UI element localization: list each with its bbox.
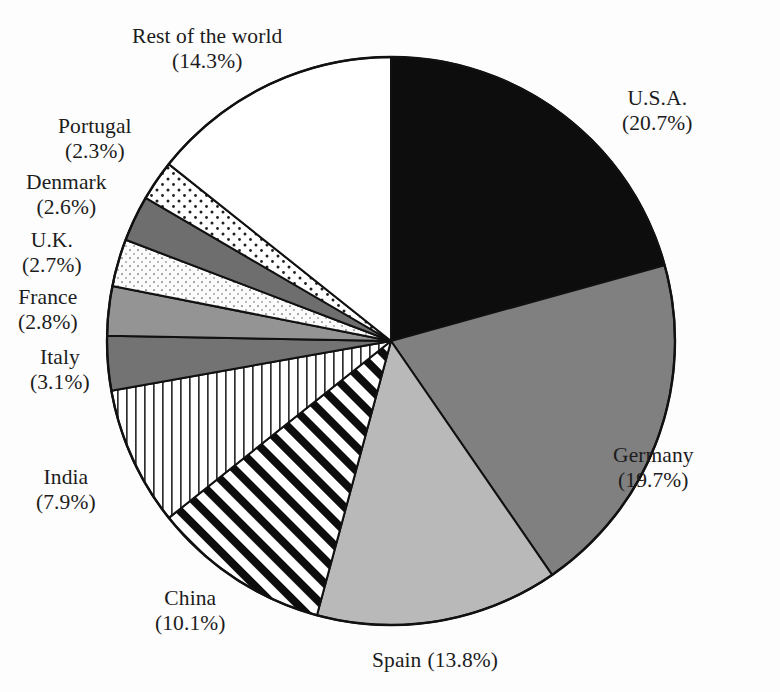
pie-chart: U.S.A.(20.7%)Germany(19.7%)Spain(13.8%)C… bbox=[0, 0, 780, 692]
pie-label-denmark: Denmark(2.6%) bbox=[26, 170, 107, 220]
pie-label-percent: (7.9%) bbox=[36, 490, 96, 515]
pie-label-name: U.K. bbox=[22, 228, 82, 253]
pie-label-india: India(7.9%) bbox=[36, 465, 96, 515]
pie-label-percent: (13.8%) bbox=[427, 648, 498, 672]
pie-label-name: U.S.A. bbox=[622, 86, 693, 111]
pie-label-percent: (10.1%) bbox=[155, 611, 226, 636]
pie-label-name: Rest of the world bbox=[132, 24, 282, 49]
pie-label-name: Spain bbox=[372, 648, 421, 672]
pie-label-name: Denmark bbox=[26, 170, 107, 195]
pie-label-percent: (20.7%) bbox=[622, 111, 693, 136]
pie-label-percent: (2.8%) bbox=[18, 310, 78, 335]
pie-label-name: Portugal bbox=[58, 114, 132, 139]
pie-label-percent: (19.7%) bbox=[613, 468, 694, 493]
pie-label-italy: Italy(3.1%) bbox=[30, 345, 90, 395]
pie-label-percent: (3.1%) bbox=[30, 370, 90, 395]
pie-label-u-s-a: U.S.A.(20.7%) bbox=[622, 86, 693, 136]
pie-label-name: Italy bbox=[30, 345, 90, 370]
pie-label-france: France(2.8%) bbox=[18, 285, 78, 335]
pie-label-percent: (14.3%) bbox=[132, 49, 282, 74]
pie-label-name: India bbox=[36, 465, 96, 490]
pie-label-portugal: Portugal(2.3%) bbox=[58, 114, 132, 164]
pie-label-rest-of-the-world: Rest of the world(14.3%) bbox=[132, 24, 282, 74]
pie-label-spain: Spain(13.8%) bbox=[372, 648, 498, 673]
pie-label-percent: (2.6%) bbox=[26, 195, 107, 220]
pie-label-name: Germany bbox=[613, 443, 694, 468]
pie-label-u-k: U.K.(2.7%) bbox=[22, 228, 82, 278]
pie-slice-group bbox=[107, 57, 675, 625]
pie-label-germany: Germany(19.7%) bbox=[613, 443, 694, 493]
pie-label-china: China(10.1%) bbox=[155, 586, 226, 636]
pie-label-percent: (2.7%) bbox=[22, 253, 82, 278]
pie-label-percent: (2.3%) bbox=[58, 139, 132, 164]
pie-label-name: France bbox=[18, 285, 78, 310]
pie-label-name: China bbox=[155, 586, 226, 611]
